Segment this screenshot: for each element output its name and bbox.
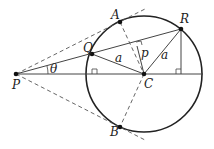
label-a: A	[110, 8, 120, 22]
right-angle-p	[136, 41, 142, 45]
label-r: R	[179, 12, 189, 26]
secant-pqr	[16, 29, 181, 74]
right-angle-q	[92, 69, 97, 74]
point-c	[142, 72, 147, 77]
label-radius-qc: a	[115, 51, 122, 65]
point-p	[14, 72, 19, 77]
tangent-pb	[16, 74, 145, 140]
label-radius-rc: a	[161, 48, 168, 62]
label-b: B	[109, 125, 119, 139]
diagram-canvas: A B C P Q R a a p θ	[0, 0, 214, 149]
point-r	[179, 27, 184, 32]
label-perpendicular: p	[141, 46, 149, 60]
label-p: P	[11, 78, 21, 92]
label-q: Q	[83, 41, 93, 55]
right-angle-r	[176, 69, 181, 74]
line-cb	[120, 74, 144, 127]
label-theta: θ	[50, 62, 58, 76]
tangent-pa	[16, 9, 145, 74]
angle-arc	[47, 66, 48, 74]
label-c: C	[144, 77, 153, 91]
